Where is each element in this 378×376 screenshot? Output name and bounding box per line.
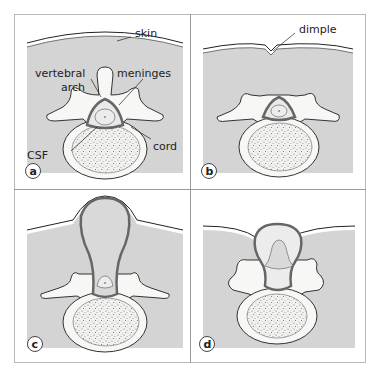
panel-d: d — [191, 190, 365, 362]
panel-a: skin vertebral arch meninges cord CSF a — [15, 15, 190, 189]
label-cord: cord — [153, 140, 177, 153]
panel-b: dimple b — [191, 15, 365, 189]
panel-c: c — [15, 190, 190, 362]
panel-badge-a: a — [30, 165, 37, 178]
label-arch: arch — [61, 81, 85, 94]
panel-badge-b: b — [206, 165, 214, 178]
label-meninges: meninges — [117, 67, 171, 80]
label-skin: skin — [135, 27, 157, 40]
panel-badge-c: c — [32, 338, 39, 351]
label-vertebral: vertebral — [35, 67, 85, 80]
label-dimple: dimple — [299, 23, 337, 36]
panel-badge-d: d — [204, 338, 212, 351]
label-csf: CSF — [27, 149, 48, 162]
